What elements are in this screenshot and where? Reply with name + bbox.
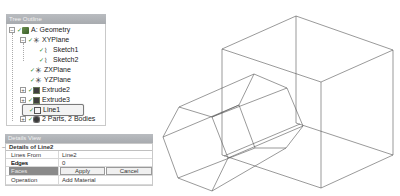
- tree-item-xyplane[interactable]: − ✓ ✳ XYPlane: [20, 35, 69, 45]
- tree-item-extrude2[interactable]: + ✓ Extrude2: [20, 85, 70, 95]
- details-view-title: Details View: [5, 134, 153, 143]
- tree-item-zxplane[interactable]: ✓ ✳ ZXPlane: [30, 65, 71, 75]
- tree-outline-title: Tree Outline: [6, 14, 106, 24]
- tree-item-label: Sketch2: [53, 55, 78, 65]
- cube-wireframe: [222, 16, 393, 188]
- details-group-label: Details of Line2: [9, 143, 53, 151]
- apply-button[interactable]: Apply: [60, 167, 105, 175]
- row-value[interactable]: 0: [60, 159, 152, 166]
- tree-item-label: ZXPlane: [44, 65, 71, 75]
- collapse-icon[interactable]: −: [2, 143, 6, 151]
- details-group-header[interactable]: − Details of Line2: [6, 143, 152, 151]
- tree-item-sketch2[interactable]: ✓ ⌇ Sketch2: [39, 55, 78, 65]
- check-icon: ✓: [28, 38, 32, 43]
- extrude-icon: [33, 87, 40, 94]
- details-row-faces[interactable]: Faces Apply Cancel: [6, 167, 152, 176]
- check-icon: ✓: [28, 88, 32, 93]
- check-icon: ✓: [30, 78, 34, 83]
- check-icon: ✓: [39, 48, 43, 53]
- plane-icon: ✳: [33, 37, 40, 44]
- parts-icon: [33, 116, 40, 123]
- tree-item-label: XYPlane: [42, 35, 69, 45]
- geometry-icon: [22, 27, 29, 34]
- tree-item-sketch1[interactable]: ✓ ⌇ Sketch1: [39, 45, 78, 55]
- cancel-button[interactable]: Cancel: [106, 167, 152, 175]
- sketch-icon: ⌇: [44, 57, 51, 64]
- tree-item-label: Extrude2: [42, 85, 70, 95]
- collapse-icon[interactable]: −: [9, 27, 15, 33]
- check-icon: ✓: [30, 68, 34, 73]
- details-row-lines-from-edges[interactable]: Lines From Edges Line2: [6, 151, 152, 159]
- expand-icon[interactable]: +: [20, 116, 26, 122]
- graphics-viewport[interactable]: [160, 0, 400, 196]
- row-label: Faces: [9, 167, 59, 175]
- check-icon: ✓: [17, 28, 21, 33]
- tree-guide-line: [12, 33, 13, 121]
- tree-item-label: YZPlane: [44, 75, 71, 85]
- row-label: Lines From Edges: [9, 151, 59, 158]
- hexagonal-prism-wireframe: [163, 74, 303, 191]
- tree-item-geometry[interactable]: − ✓ A: Geometry: [9, 25, 70, 35]
- expand-icon[interactable]: +: [20, 87, 26, 93]
- row-label: Edges: [9, 159, 59, 166]
- check-icon: ✓: [28, 117, 32, 122]
- check-icon: ✓: [29, 108, 33, 113]
- row-value[interactable]: Add Material: [60, 176, 152, 184]
- row-label: Operation: [9, 176, 59, 184]
- details-row-operation[interactable]: Operation Add Material: [6, 176, 152, 185]
- expand-icon[interactable]: +: [20, 97, 26, 103]
- tree-item-label: Sketch1: [53, 45, 78, 55]
- tree-item-yzplane[interactable]: ✓ ✳ YZPlane: [30, 75, 71, 85]
- tree-item-label: 2 Parts, 2 Bodies: [42, 114, 95, 124]
- line-body-icon: [34, 107, 41, 114]
- tree-item-label: A: Geometry: [31, 25, 70, 35]
- plane-icon: ✳: [35, 67, 42, 74]
- check-icon: ✓: [39, 58, 43, 63]
- extrude-icon: [33, 97, 40, 104]
- tree-item-parts-bodies[interactable]: + ✓ 2 Parts, 2 Bodies: [20, 114, 95, 124]
- sketch-icon: ⌇: [44, 47, 51, 54]
- details-row-edges[interactable]: Edges 0: [6, 159, 152, 167]
- plane-icon: ✳: [35, 77, 42, 84]
- check-icon: ✓: [28, 98, 32, 103]
- tree-guide-line: [23, 43, 24, 61]
- collapse-icon[interactable]: −: [20, 37, 26, 43]
- row-value[interactable]: Line2: [60, 151, 152, 158]
